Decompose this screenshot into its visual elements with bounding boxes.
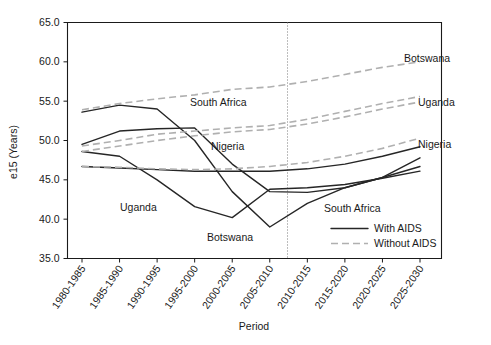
label-uganda-without-aids: Uganda — [418, 96, 455, 108]
y-tick-label: 60.0 — [39, 55, 60, 67]
x-tick-label: 1995-2000 — [162, 263, 201, 311]
x-tick-label: 2000-2005 — [199, 263, 238, 311]
y-axis: 35.040.045.050.055.060.065.0 — [39, 16, 67, 264]
x-axis: 1980-19851985-19901990-19951995-20002000… — [49, 259, 426, 311]
label-botswana-with-aids: Botswana — [207, 231, 253, 243]
series-botswana-without-aids — [82, 62, 420, 110]
x-tick-label: 2020-2025 — [349, 263, 388, 311]
y-tick-label: 45.0 — [39, 173, 60, 185]
x-tick-label: 1980-1985 — [49, 263, 88, 311]
label-southafrica-without-aids: South Africa — [190, 96, 247, 108]
x-tick-label: 2025-2030 — [387, 263, 426, 311]
x-tick-label: 2005-2010 — [237, 263, 276, 311]
y-tick-label: 65.0 — [39, 16, 60, 28]
label-nigeria-with-aids: Nigeria — [418, 138, 451, 150]
label-uganda-with-aids: Uganda — [120, 201, 157, 213]
chart-canvas: 35.040.045.050.055.060.065.0 1980-198519… — [0, 0, 491, 345]
legend-label-without-aids: Without AIDS — [374, 237, 436, 249]
label-southafrica-with-aids: South Africa — [324, 202, 381, 214]
label-nigeria-without-aids: Nigeria — [211, 140, 244, 152]
x-axis-title: Period — [239, 320, 270, 332]
life-expectancy-chart: 35.040.045.050.055.060.065.0 1980-198519… — [0, 0, 491, 345]
x-tick-label: 1985-1990 — [87, 263, 126, 311]
y-tick-label: 35.0 — [39, 252, 60, 264]
y-tick-label: 40.0 — [39, 213, 60, 225]
y-tick-label: 50.0 — [39, 134, 60, 146]
label-botswana-without-aids: Botswana — [404, 52, 450, 64]
series-south-africa-without-aids — [82, 96, 420, 146]
y-axis-title: e15 (Years) — [7, 125, 19, 179]
x-tick-label: 1990-1995 — [124, 263, 163, 311]
legend-label-with-aids: With AIDS — [374, 222, 422, 234]
legend: With AIDS Without AIDS — [331, 222, 436, 249]
series-south-africa-with-aids — [82, 128, 420, 193]
y-tick-label: 55.0 — [39, 95, 60, 107]
x-tick-label: 2015-2020 — [312, 263, 351, 311]
x-tick-label: 2010-2015 — [274, 263, 313, 311]
